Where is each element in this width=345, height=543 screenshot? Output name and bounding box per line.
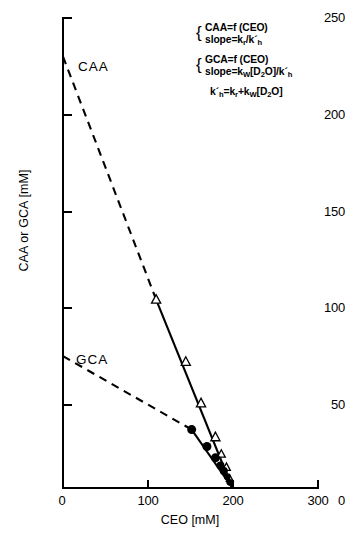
x-tick-label-200: 200 bbox=[210, 494, 256, 507]
eq-p2: =k bbox=[224, 86, 236, 97]
y-tick-label-200: 200 bbox=[291, 108, 345, 121]
caa-slope-mid: /k´ bbox=[246, 34, 258, 45]
eq-p4: [D bbox=[257, 86, 268, 97]
y-axis-title: CAA or GCA [mM] bbox=[18, 151, 31, 291]
eq-s4: 2 bbox=[267, 90, 271, 99]
eq-p1: k´ bbox=[210, 86, 219, 97]
gca-extrapolation-line bbox=[63, 356, 192, 429]
gca-slope-mid2: O]/k´ bbox=[265, 66, 288, 77]
series-label-caa: CAA bbox=[78, 60, 109, 74]
gca-fit-line bbox=[192, 430, 233, 488]
gca-slope-sub-2: 2 bbox=[261, 70, 265, 79]
caa-slope-prefix: slope=k bbox=[205, 34, 243, 45]
y-tick-250 bbox=[64, 17, 72, 19]
x-tick-label-100: 100 bbox=[125, 494, 171, 507]
x-axis-line bbox=[62, 487, 319, 489]
caa-slope-sub-r: r bbox=[243, 38, 246, 47]
y-tick-100 bbox=[64, 307, 72, 309]
annotation-caa-line2: slope=kr/k´h bbox=[205, 34, 341, 47]
brace-icon: { bbox=[196, 54, 202, 76]
caa-data-points bbox=[152, 295, 234, 482]
x-tick-label-300: 300 bbox=[295, 494, 341, 507]
y-axis-line bbox=[62, 17, 64, 489]
brace-icon: { bbox=[196, 22, 202, 44]
x-tick-label-0: 0 bbox=[39, 494, 85, 507]
caa-fit-line bbox=[156, 300, 232, 488]
annotation-equation: k´h=kr+kW[D2O] bbox=[196, 86, 341, 99]
y-tick-50 bbox=[64, 404, 72, 406]
y-tick-150 bbox=[64, 211, 72, 213]
y-tick-label-150: 150 bbox=[291, 205, 345, 218]
annotation-block: { CAA=f (CEO) slope=kr/k´h { GCA=f (CEO)… bbox=[196, 22, 341, 99]
caa-slope-sub-h: h bbox=[258, 38, 263, 47]
gca-slope-sub-h: h bbox=[288, 70, 293, 79]
annotation-gca-line1: GCA=f (CEO) bbox=[205, 54, 341, 66]
gca-slope-sub-w: W bbox=[243, 70, 250, 79]
x-tick-300 bbox=[317, 480, 319, 488]
x-tick-100 bbox=[147, 480, 149, 488]
x-tick-200 bbox=[232, 480, 234, 488]
annotation-group-gca: { GCA=f (CEO) slope=kW[D2O]/k´h bbox=[196, 54, 341, 80]
eq-p3: +k bbox=[238, 86, 250, 97]
annotation-caa-line1: CAA=f (CEO) bbox=[205, 22, 341, 34]
caa-extrapolation-line bbox=[63, 57, 156, 300]
annotation-group-caa: { CAA=f (CEO) slope=kr/k´h bbox=[196, 22, 341, 48]
eq-p5: O] bbox=[271, 86, 282, 97]
chart-figure: 250 200 150 100 50 0 0 100 200 300 CAA o… bbox=[0, 0, 345, 543]
gca-slope-mid: [D bbox=[250, 66, 261, 77]
x-axis-title: CEO [mM] bbox=[120, 514, 260, 527]
series-label-gca: GCA bbox=[76, 353, 108, 367]
y-tick-label-50: 50 bbox=[291, 398, 345, 411]
y-tick-label-100: 100 bbox=[291, 301, 345, 314]
y-tick-200 bbox=[64, 114, 72, 116]
gca-data-points bbox=[187, 425, 233, 486]
eq-s1: h bbox=[219, 90, 224, 99]
eq-s3: W bbox=[249, 90, 256, 99]
gca-slope-prefix: slope=k bbox=[205, 66, 243, 77]
annotation-gca-line2: slope=kW[D2O]/k´h bbox=[205, 66, 341, 79]
eq-s2: r bbox=[235, 90, 238, 99]
